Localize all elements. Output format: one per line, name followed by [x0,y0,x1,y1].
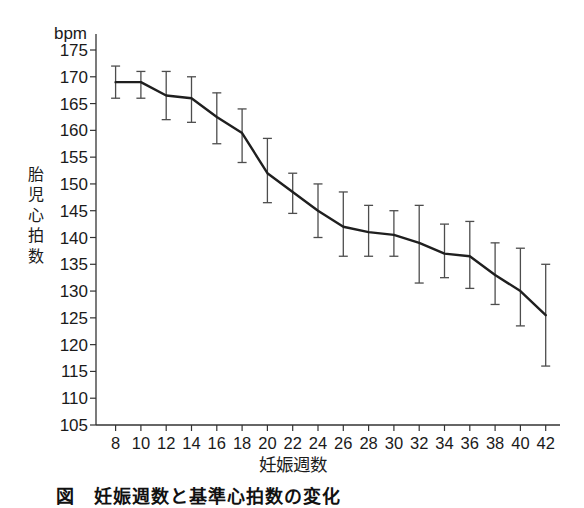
x-tick-label: 26 [334,434,352,452]
y-tick-label: 135 [60,255,88,274]
x-tick-label: 32 [410,434,428,452]
y-axis-title: 胎児心拍数 [28,166,44,265]
fhr-gestation-chart: bpm 胎児心拍数 105110115120125130135140145150… [0,0,584,480]
y-tick-label: 165 [60,95,88,114]
x-tick-label: 18 [233,434,251,452]
x-tick-label: 36 [461,434,479,452]
x-tick-label: 10 [132,434,150,452]
y-tick-label: 175 [60,41,88,60]
fhr-mean-line [116,82,546,315]
x-tick-label: 42 [537,434,555,452]
x-tick-label: 38 [486,434,504,452]
y-tick-label: 150 [60,175,88,194]
y-tick-label: 130 [60,282,88,301]
y-tick-label: 145 [60,202,88,221]
x-tick-label: 16 [208,434,226,452]
x-tick-label: 20 [258,434,276,452]
y-tick-label: 110 [61,389,88,408]
x-tick-label: 12 [157,434,175,452]
chart-canvas: bpm 胎児心拍数 105110115120125130135140145150… [0,0,584,480]
x-tick-label: 24 [309,434,327,452]
x-tick-label: 34 [435,434,453,452]
y-tick-label: 140 [60,229,88,248]
x-tick-label: 30 [385,434,403,452]
y-tick-label: 120 [60,336,88,355]
x-tick-label: 14 [182,434,200,452]
y-tick-label: 115 [61,362,88,381]
y-tick-label: 160 [60,121,88,140]
y-tick-label: 155 [60,148,88,167]
x-tick-label: 28 [359,434,377,452]
y-tick-label: 125 [60,309,88,328]
x-axis-title: 妊娠週数 [259,455,327,475]
x-tick-label: 40 [511,434,529,452]
y-tick-label: 170 [60,68,88,87]
x-tick-label: 8 [111,434,120,452]
y-tick-label: 105 [60,416,88,435]
plot-area: 1051101151201251301351401451501551601651… [60,34,560,452]
x-tick-label: 22 [284,434,302,452]
figure-caption: 図 妊娠週数と基準心拍数の変化 [56,482,341,508]
